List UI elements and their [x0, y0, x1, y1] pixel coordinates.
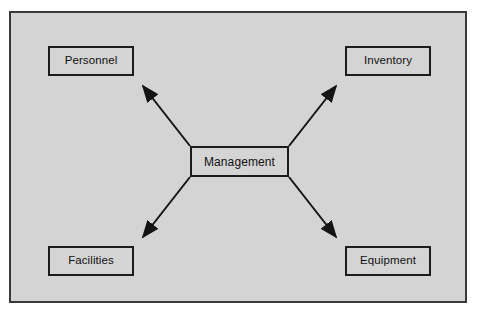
node-personnel[interactable]: Personnel: [48, 46, 134, 76]
node-facilities-label: Facilities: [68, 255, 114, 267]
node-management[interactable]: Management: [190, 146, 289, 177]
diagram-canvas: Personnel Inventory Management Facilitie…: [0, 0, 477, 314]
node-inventory[interactable]: Inventory: [345, 46, 431, 76]
node-personnel-label: Personnel: [65, 55, 118, 67]
node-management-label: Management: [204, 156, 275, 168]
node-equipment[interactable]: Equipment: [345, 246, 431, 276]
node-facilities[interactable]: Facilities: [48, 246, 134, 276]
node-equipment-label: Equipment: [360, 255, 416, 267]
node-inventory-label: Inventory: [364, 55, 412, 67]
